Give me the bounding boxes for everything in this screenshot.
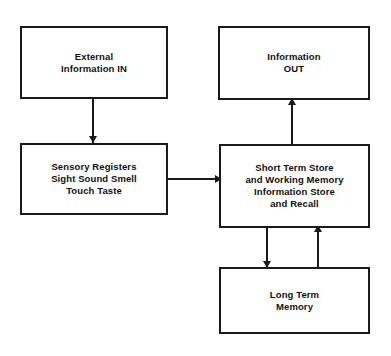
node-short-term-store[interactable]: Short Term Store and Working Memory Info… bbox=[219, 144, 370, 228]
node-short-term-store-line-1: Short Term Store bbox=[255, 162, 334, 174]
node-external-information-in-line-1: External bbox=[75, 51, 113, 63]
arrowhead-down-icon-external-to-sensory bbox=[89, 136, 97, 143]
node-long-term-memory[interactable]: Long Term Memory bbox=[219, 267, 370, 334]
node-long-term-memory-line-2: Memory bbox=[276, 301, 313, 313]
node-short-term-store-line-2: and Working Memory bbox=[245, 174, 343, 186]
node-external-information-in-line-2: Information IN bbox=[61, 63, 127, 75]
node-short-term-store-line-4: and Recall bbox=[270, 198, 319, 210]
connector-short-term-to-information-out bbox=[291, 100, 293, 144]
node-short-term-store-line-3: Information Store bbox=[254, 186, 335, 198]
node-sensory-registers-line-3: Touch Taste bbox=[66, 185, 122, 197]
connector-long-term-to-short-term bbox=[317, 228, 319, 269]
node-information-out-line-1: Information bbox=[267, 51, 320, 63]
node-information-out-line-2: OUT bbox=[284, 63, 304, 75]
node-information-out[interactable]: Information OUT bbox=[218, 26, 370, 100]
node-sensory-registers-line-1: Sensory Registers bbox=[51, 161, 136, 173]
diagram-canvas: External Information IN Information OUT … bbox=[0, 0, 391, 356]
node-long-term-memory-line-1: Long Term bbox=[270, 289, 319, 301]
node-sensory-registers-line-2: Sight Sound Smell bbox=[51, 173, 137, 185]
node-sensory-registers[interactable]: Sensory Registers Sight Sound Smell Touc… bbox=[20, 143, 168, 215]
node-external-information-in[interactable]: External Information IN bbox=[20, 26, 168, 99]
connector-sensory-to-short-term bbox=[168, 178, 222, 180]
